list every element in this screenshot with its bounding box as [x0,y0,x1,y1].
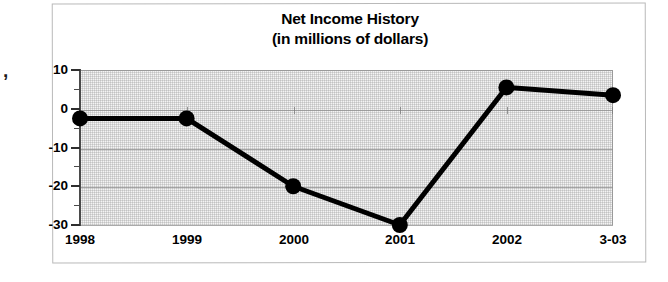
y-tick--5 [74,128,80,129]
gridline--20 [80,187,613,188]
chart-subtitle: (in millions of dollars) [80,30,620,48]
y-tick-0 [71,108,80,110]
x-axis-label-2002: 2002 [467,232,547,247]
x-axis-label-3-03: 3-03 [573,232,653,247]
chart-title: Net Income History [80,10,620,28]
xtick-mark-2002 [507,107,508,114]
gridline--10 [80,149,613,150]
y-axis-label--30: -30 [26,217,68,232]
y-tick--20 [71,185,80,187]
y-tick-5 [74,89,80,90]
y-tick--15 [74,166,80,167]
xtick-mark-2000 [294,107,295,114]
y-axis-label-10: 10 [26,62,68,77]
gridline--30 [80,225,613,226]
xtick-mark-2001 [400,107,401,114]
gridline-0 [80,110,613,111]
y-axis-label--10: -10 [26,140,68,155]
y-axis-label-0: 0 [26,101,68,116]
xtick-mark-3-03 [612,107,613,114]
y-tick--25 [74,205,80,206]
x-axis-label-2000: 2000 [254,232,334,247]
y-tick-10 [71,69,80,71]
scan-edge-artifact: , [3,66,10,79]
xtick-mark-1999 [187,107,188,114]
plot-area [80,70,613,225]
x-axis-label-1998: 1998 [40,232,120,247]
x-axis-label-2001: 2001 [360,232,440,247]
y-tick--30 [71,224,80,226]
y-tick--10 [71,147,80,149]
x-axis-label-1999: 1999 [147,232,227,247]
y-axis-label--20: -20 [26,178,68,193]
